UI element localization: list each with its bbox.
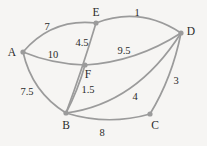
edge-weight-f-b: 1.5 <box>81 85 94 96</box>
graph-edges-canvas <box>0 0 207 146</box>
node-label-a: A <box>8 47 16 59</box>
node-d[interactable] <box>178 30 183 35</box>
node-a[interactable] <box>20 49 25 54</box>
node-label-d: D <box>187 26 195 38</box>
graph-figure: A B C D E F 7 10 7.5 1 4.5 9.5 1.5 4 8 3 <box>0 0 207 146</box>
edge-a-b <box>23 52 66 113</box>
node-f[interactable] <box>82 62 87 67</box>
edge-f-d <box>85 33 181 65</box>
edge-weight-a-b: 7.5 <box>20 87 33 98</box>
node-label-e: E <box>92 7 99 19</box>
node-c[interactable] <box>147 111 152 116</box>
edge-e-d <box>96 16 181 33</box>
edge-weight-b-d: 4 <box>132 92 137 103</box>
node-label-f: F <box>85 69 91 81</box>
edge-weight-e-d: 1 <box>134 8 139 19</box>
node-b[interactable] <box>63 110 68 115</box>
edge-weight-b-c: 8 <box>99 128 104 139</box>
node-label-c: C <box>151 120 159 132</box>
node-e[interactable] <box>93 20 98 25</box>
edge-weight-e-b: 4.5 <box>75 38 88 49</box>
edge-weight-a-f: 10 <box>48 50 59 61</box>
edge-weight-f-d: 9.5 <box>117 46 130 57</box>
edge-c-d <box>150 33 181 114</box>
edge-weight-c-d: 3 <box>173 76 178 87</box>
graph-nodes <box>20 20 183 116</box>
edge-weight-a-e: 7 <box>44 22 49 33</box>
edge-b-c <box>66 113 150 120</box>
node-label-b: B <box>62 120 70 132</box>
